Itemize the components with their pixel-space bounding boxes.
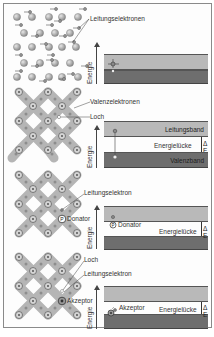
band-gap-label: Energielücke (159, 307, 197, 314)
delta-e-label: Δ E (203, 305, 211, 318)
donor-level-icon: P (4, 169, 211, 249)
panel-intrinsic: Valenzelektronen Loch Energie Leitungsba… (4, 86, 211, 168)
electron-transition-icon (4, 86, 211, 168)
panel-p-type: Loch Leitungselektron Akzeptor Energie A… (4, 251, 211, 329)
acceptor-level-icon (4, 251, 211, 329)
panel-n-type: P Leitungselektron Donator Energie P Don… (4, 169, 211, 249)
delta-e-arrow-icon (201, 222, 202, 236)
delta-e-label: Δ E (203, 226, 211, 239)
acceptor-level-label: Akzeptor (119, 305, 145, 312)
panel-metal: Leitungselektronen Energie (4, 4, 211, 84)
diagram-frame: Leitungselektronen Energie (3, 3, 212, 328)
donor-level-label: Donator (118, 222, 141, 229)
excited-electron-icon (4, 4, 211, 84)
band-gap-label: Energielücke (159, 229, 197, 236)
svg-text:P: P (111, 223, 114, 228)
delta-e-arrow-icon (201, 302, 202, 314)
